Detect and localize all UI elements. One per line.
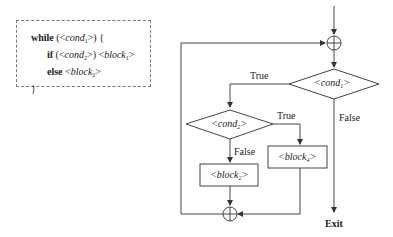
false-label-cond2: False: [234, 146, 255, 157]
true-label-cond2: True: [277, 110, 296, 121]
false-label-cond1: False: [339, 112, 360, 123]
block4-label: <block4>: [278, 151, 316, 163]
cond2-label: <cond2>: [211, 118, 247, 130]
true-label-cond1: True: [250, 70, 269, 81]
cond1-label: <cond1>: [314, 77, 350, 89]
flowchart: [0, 0, 393, 237]
exit-label: Exit: [325, 218, 343, 229]
block2-label: <block2>: [210, 169, 248, 181]
